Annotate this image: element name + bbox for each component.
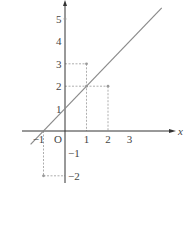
y-axis-arrow-icon — [63, 0, 67, 6]
coordinate-plot: x −1O12354321−1−2 — [0, 0, 191, 233]
x-tick-label: −1 — [33, 133, 45, 145]
graph-line — [31, 8, 162, 145]
y-tick-label: −1 — [68, 147, 80, 159]
x-axis-arrow-icon — [169, 129, 176, 133]
point-marker — [64, 18, 67, 21]
tick-labels: −1O12354321−1−2 — [33, 13, 133, 182]
point-marker — [85, 85, 88, 88]
line-y-equals-x-plus-1 — [31, 8, 162, 145]
y-tick-label: 5 — [56, 13, 62, 25]
y-tick-label: 2 — [56, 80, 62, 92]
x-axis-label: x — [177, 125, 183, 137]
y-tick-label: −2 — [68, 170, 80, 182]
point-marker — [107, 85, 110, 88]
y-tick-label: 4 — [56, 35, 62, 47]
x-tick-label: 3 — [127, 133, 133, 145]
x-tick-label: 2 — [105, 133, 111, 145]
y-tick-label: 1 — [56, 103, 62, 115]
y-tick-label: 3 — [56, 58, 62, 70]
point-marker — [42, 174, 45, 177]
x-tick-label: O — [54, 133, 62, 145]
x-tick-label: 1 — [84, 133, 90, 145]
point-marker — [85, 62, 88, 65]
axes: x — [22, 0, 183, 183]
